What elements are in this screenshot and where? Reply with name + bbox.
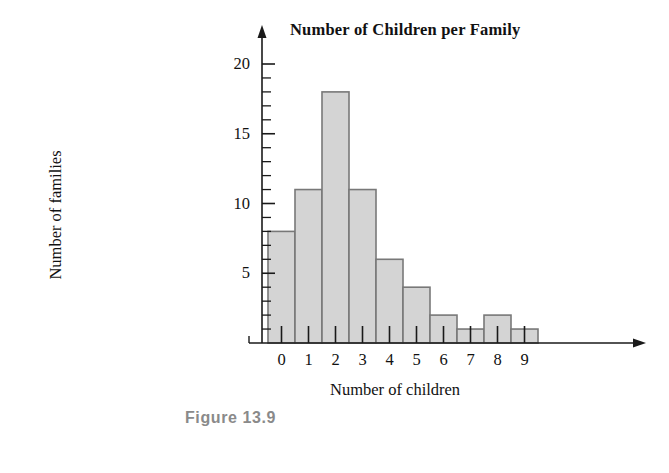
figure-container: Number of Children per Family Number of … [0,0,669,473]
bars-group [268,92,538,343]
histogram-bar [322,92,349,343]
x-tick-label: 1 [295,350,323,370]
y-tick-label: 20 [210,54,250,74]
x-tick-label: 5 [403,350,431,370]
x-tick-label: 6 [430,350,458,370]
x-tick-label: 7 [457,350,485,370]
x-tick-label: 2 [322,350,350,370]
histogram-bar [349,190,376,343]
x-tick-label: 8 [484,350,512,370]
x-tick-label: 3 [349,350,377,370]
y-tick-label: 10 [210,194,250,214]
figure-caption: Figure 13.9 [185,409,276,427]
x-axis-arrow-icon [633,339,646,348]
chart-plot-area: Number of families Number of children 51… [0,0,669,473]
x-tick-label: 9 [511,350,539,370]
x-axis-title: Number of children [330,380,460,400]
histogram-bar [295,190,322,343]
y-axis-arrow-icon [258,25,267,38]
y-axis-title: Number of families [46,95,66,335]
y-tick-label: 5 [210,263,250,283]
x-tick-label: 4 [376,350,404,370]
x-tick-label: 0 [268,350,296,370]
histogram-svg [0,0,669,473]
y-tick-label: 15 [210,124,250,144]
